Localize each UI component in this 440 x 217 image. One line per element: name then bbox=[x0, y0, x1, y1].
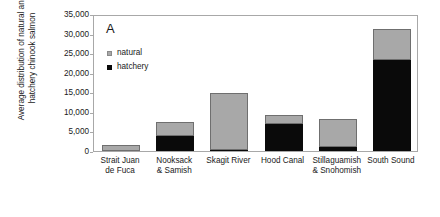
y-axis-tick-label: 20,000 bbox=[43, 70, 89, 78]
chart-legend: natural hatchery bbox=[107, 47, 148, 75]
bar-segment-hatchery bbox=[373, 60, 411, 151]
legend-label-hatchery: hatchery bbox=[117, 63, 148, 71]
plot-area: A natural hatchery bbox=[93, 15, 418, 152]
bar-segment-natural bbox=[210, 93, 248, 150]
bar-south-sound bbox=[373, 28, 411, 151]
bar-segment-natural bbox=[265, 115, 303, 124]
legend-item-hatchery: hatchery bbox=[107, 61, 148, 73]
y-axis-tick-label: 0 bbox=[43, 148, 89, 156]
y-axis-tick-mark bbox=[90, 152, 93, 153]
bar-segment-natural bbox=[373, 29, 411, 61]
bar-segment-natural bbox=[102, 145, 140, 151]
bar-segment-hatchery bbox=[265, 124, 303, 151]
y-axis-tick-label: 25,000 bbox=[43, 50, 89, 58]
hatchery-swatch-icon bbox=[107, 65, 112, 70]
y-axis-title: Average distribution of natural and hatc… bbox=[16, 0, 38, 143]
bar-segment-natural bbox=[319, 119, 357, 148]
natural-swatch-icon bbox=[107, 51, 112, 56]
bar-nooksack-and-samish bbox=[156, 122, 194, 151]
bar-stillaguamish-and-snohomish bbox=[319, 119, 357, 151]
panel-label: A bbox=[106, 22, 115, 35]
y-axis-tick-label: 5,000 bbox=[43, 128, 89, 136]
x-axis-tick-label: South Sound bbox=[354, 156, 428, 166]
y-axis-tick-label: 35,000 bbox=[43, 11, 89, 19]
bar-skagit-river bbox=[210, 93, 248, 151]
plot-inner: A natural hatchery bbox=[94, 16, 417, 151]
y-axis-tick-label: 30,000 bbox=[43, 31, 89, 39]
y-axis-tick-label: 15,000 bbox=[43, 89, 89, 97]
bar-segment-natural bbox=[156, 122, 194, 136]
bar-segment-hatchery bbox=[319, 147, 357, 151]
chart-figure: Average distribution of natural and hatc… bbox=[0, 0, 440, 217]
bar-hood-canal bbox=[265, 115, 303, 151]
legend-label-natural: natural bbox=[117, 49, 142, 57]
bar-strait-juan-de-fuca bbox=[102, 145, 140, 151]
bar-segment-hatchery bbox=[156, 136, 194, 151]
legend-item-natural: natural bbox=[107, 47, 148, 59]
y-axis-tick-label: 10,000 bbox=[43, 109, 89, 117]
